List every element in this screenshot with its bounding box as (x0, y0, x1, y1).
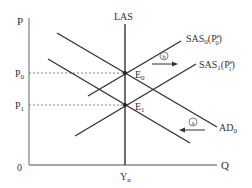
p1-label: P1 (15, 100, 25, 113)
svg-text:b: b (162, 53, 165, 60)
ad0-curve (57, 33, 217, 127)
x-axis-label: Q (221, 159, 229, 171)
svg-text:a: a (192, 119, 195, 126)
sas0-label: SAS0(Pe0) (186, 33, 222, 46)
p0-label: P0 (15, 68, 25, 81)
yn-label: Yn (120, 171, 131, 184)
sas1-label: SAS1(Pe1) (199, 59, 235, 72)
las-label: LAS (114, 11, 133, 22)
shift-arrow-a: a (179, 118, 205, 133)
ad0-label: AD0 (219, 122, 237, 135)
ad-as-diagram: P Q 0 P0 P1 LAS E0 E1 Yn SAS0(Pe0) SAS1(… (0, 0, 252, 188)
origin-label: 0 (17, 162, 22, 173)
y-axis-label: P (17, 15, 23, 27)
ad1-curve (48, 59, 190, 143)
e0-point (123, 71, 127, 75)
e1-point (123, 103, 127, 107)
shift-arrow-b: b (152, 52, 178, 67)
